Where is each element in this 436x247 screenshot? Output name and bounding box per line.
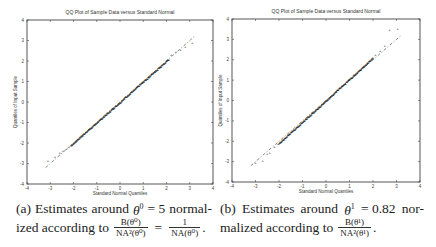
caption-b-word: around	[301, 199, 339, 218]
x-tick-label: 2	[165, 186, 168, 191]
svg-text:+: +	[268, 150, 271, 155]
svg-text:+: +	[374, 52, 377, 57]
qq-plot-b: QQ Plot of Sample Data versus Standard N…	[218, 0, 436, 196]
y-tick-label: 2	[226, 57, 229, 62]
svg-text:+: +	[388, 27, 391, 32]
caption-b-fraction: B(θ¹) NA²(θ¹)	[338, 217, 371, 238]
caption-b-period: .	[373, 218, 376, 237]
figure-panel-a: QQ Plot of Sample Data versus Standard N…	[0, 0, 218, 247]
y-tick-label: 2	[21, 59, 24, 64]
y-tick-label: -2	[225, 139, 229, 144]
x-tick-label: -3	[48, 186, 52, 191]
y-axis-label: Quantiles of Input Sample	[218, 74, 223, 126]
y-tick-label: 3	[21, 38, 24, 43]
x-tick-label: 2	[372, 184, 375, 189]
y-tick-label: 0	[226, 98, 229, 103]
y-tick-label: -4	[225, 180, 229, 185]
svg-text:+: +	[397, 26, 400, 31]
figure-panel-b: QQ Plot of Sample Data versus Standard N…	[218, 0, 436, 247]
svg-text:+: +	[179, 47, 182, 52]
plot-area: QQ Plot of Sample Data versus Standard N…	[218, 8, 422, 194]
caption-b: (b) Estimates around θ1 = 0.82 nor- mali…	[220, 199, 424, 237]
y-tick-label: 4	[21, 18, 24, 23]
x-tick-label: 4	[419, 184, 422, 189]
caption-a-prefix: ized according to	[16, 218, 109, 237]
svg-text:+: +	[47, 158, 50, 163]
caption-a-word: Estimates	[35, 199, 88, 218]
x-tick-label: 3	[395, 184, 398, 189]
y-axis-label: Quantiles of Input Sample	[13, 76, 18, 128]
caption-a-value: = 5	[148, 199, 166, 218]
x-tick-label: -3	[253, 184, 257, 189]
y-tick-label: 0	[21, 100, 24, 105]
y-tick-label: 1	[21, 79, 24, 84]
x-tick-label: -4	[230, 184, 234, 189]
sample-points: ++++++++++++++++++++++++++++++++++++++++…	[254, 26, 399, 165]
y-tick-label: 3	[226, 37, 229, 42]
caption-b-prefix: malized according to	[220, 218, 333, 237]
caption-a-word: around	[91, 199, 129, 218]
svg-text:+: +	[384, 43, 387, 48]
x-axis-label: Standard Normal Quantiles	[93, 191, 148, 196]
caption-a-label: (a)	[16, 199, 31, 218]
caption-a-equals: =	[155, 218, 163, 237]
caption-b-word: Estimates	[242, 199, 295, 218]
svg-text:+: +	[168, 57, 171, 62]
x-tick-label: 4	[212, 186, 215, 191]
svg-text:+: +	[170, 52, 173, 57]
x-tick-label: -4	[25, 186, 29, 191]
x-axis-label: Standard Normal Quantiles	[299, 189, 354, 194]
x-tick-label: -2	[71, 186, 75, 191]
y-tick-label: -1	[225, 118, 229, 123]
y-tick-label: -3	[20, 161, 24, 166]
svg-text:+: +	[191, 40, 194, 45]
x-tick-label: 3	[188, 186, 191, 191]
y-tick-label: 4	[226, 17, 229, 22]
y-tick-label: -2	[20, 141, 24, 146]
plot-title: QQ Plot of Sample Data versus Standard N…	[272, 8, 381, 14]
caption-b-value: = 0.82	[361, 199, 396, 218]
y-tick-label: -4	[20, 182, 24, 187]
y-tick-label: -1	[20, 120, 24, 125]
plot-title: QQ Plot of Sample Data versus Standard N…	[66, 9, 175, 15]
caption-a-word: normal-	[169, 199, 212, 218]
svg-text:+: +	[379, 48, 382, 53]
svg-text:+: +	[261, 158, 264, 163]
sample-points: ++++++++++++++++++++++++++++++++++++++++…	[47, 40, 194, 163]
plot-area: QQ Plot of Sample Data versus Standard N…	[13, 9, 215, 196]
svg-text:+: +	[254, 160, 257, 165]
caption-b-word: nor-	[402, 199, 424, 218]
svg-text:+: +	[175, 49, 178, 54]
caption-a-fraction-2: 1 NA(θ⁰)	[169, 217, 200, 238]
svg-text:+: +	[184, 44, 187, 49]
caption-a: (a) Estimates around θ0 = 5 normal- ized…	[16, 199, 212, 237]
caption-b-label: (b)	[220, 199, 236, 218]
y-tick-label: -3	[225, 159, 229, 164]
y-tick-label: 1	[226, 78, 229, 83]
caption-a-fraction-1: B(θ⁰) NA²(θ⁰)	[114, 217, 148, 238]
qq-plot-a: QQ Plot of Sample Data versus Standard N…	[0, 0, 218, 196]
x-tick-label: -2	[277, 184, 281, 189]
caption-a-period: .	[202, 218, 205, 237]
svg-text:+: +	[54, 154, 57, 159]
